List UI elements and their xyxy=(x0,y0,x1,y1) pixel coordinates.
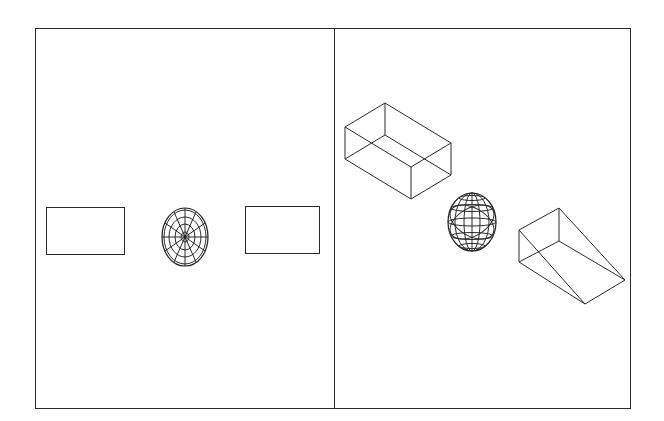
right-viewport[interactable] xyxy=(345,103,625,304)
front-wedge-rectangle[interactable] xyxy=(246,207,320,254)
isometric-wedge[interactable] xyxy=(519,208,625,304)
isometric-sphere[interactable] xyxy=(444,193,500,251)
front-sphere[interactable] xyxy=(162,208,208,266)
isometric-box[interactable] xyxy=(345,103,451,199)
left-viewport[interactable] xyxy=(47,207,320,267)
front-box-rectangle[interactable] xyxy=(47,208,125,255)
drawing-canvas xyxy=(0,0,664,421)
